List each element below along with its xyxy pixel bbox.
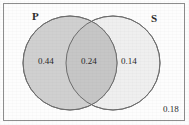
region-value-outside: 0.18 <box>163 104 179 114</box>
set-label-s: S <box>151 12 157 24</box>
venn-diagram-figure: P S 0.44 0.24 0.14 0.18 <box>0 0 189 125</box>
set-label-p: P <box>32 10 39 22</box>
region-value-intersection: 0.24 <box>81 56 97 66</box>
region-value-s-only: 0.14 <box>121 56 137 66</box>
region-value-p-only: 0.44 <box>38 56 54 66</box>
